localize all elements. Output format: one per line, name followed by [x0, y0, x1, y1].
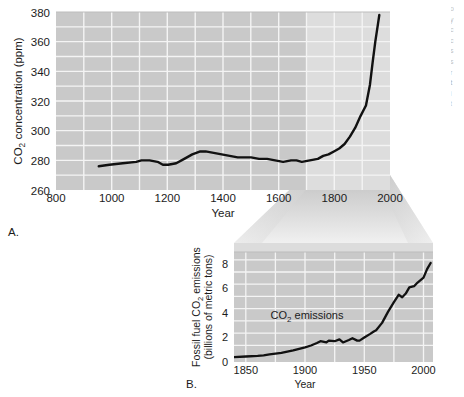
- panel-a-xtick-2: 1200: [155, 192, 181, 204]
- panel-b-label: B.: [186, 378, 197, 390]
- panel-b-ytick-0: 0: [222, 356, 228, 368]
- panel-a-ytick-6: 380: [31, 7, 50, 19]
- panel-a-ytick-5: 360: [31, 36, 50, 48]
- panel-a-xtick-1: 1000: [99, 192, 125, 204]
- panel-a-ytick-4: 340: [31, 66, 50, 78]
- panel-a-ytick-1: 280: [31, 155, 50, 167]
- panel-a-y-tick-labels: 260 280 300 320 340 360 380: [31, 7, 50, 197]
- panel-a-label: A.: [8, 226, 19, 238]
- panel-b-y-tick-labels: 0 2 4 6 8: [222, 258, 228, 368]
- panel-b-xtick-2: 1950: [352, 364, 376, 376]
- two-panel-co2-figure: 260 280 300 320 340 360 380 800 1000 120…: [0, 0, 464, 397]
- panel-b-ytick-3: 6: [222, 282, 228, 294]
- panel-b-y-axis-title-line1-part1: Fossil fuel CO: [190, 301, 202, 367]
- panel-a-x-axis-title: Year: [211, 207, 234, 219]
- panel-a-xtick-4: 1600: [266, 192, 292, 204]
- panel-b: 0 2 4 6 8 1850 1900 1950 2000 Year Fossi…: [186, 247, 436, 390]
- panel-b-series-annotation-part2: emissions: [291, 309, 343, 321]
- panel-b-ytick-1: 2: [222, 331, 228, 343]
- panel-a-y-axis-title-part2: concentration (ppm): [12, 37, 24, 143]
- panel-a-y-axis-title-part1: CO: [12, 147, 24, 164]
- panel-b-y-axis-title-line1-part2: emissions: [190, 247, 202, 297]
- panel-a: 260 280 300 320 340 360 380 800 1000 120…: [8, 7, 403, 239]
- panel-b-ytick-4: 8: [222, 258, 228, 270]
- panel-b-x-tick-labels: 1850 1900 1950 2000: [234, 364, 436, 376]
- panel-a-y-axis-title: CO2 concentration (ppm): [12, 37, 27, 164]
- panel-b-ytick-2: 4: [222, 307, 228, 319]
- panel-a-xtick-0: 800: [46, 192, 65, 204]
- panel-a-xtick-3: 1400: [210, 192, 236, 204]
- panel-b-xtick-3: 2000: [411, 364, 435, 376]
- panel-a-xtick-6: 2000: [377, 192, 403, 204]
- figure-root: 260 280 300 320 340 360 380 800 1000 120…: [0, 0, 464, 397]
- panel-b-y-axis-title-line2: (billions of metric tons): [202, 254, 214, 359]
- panel-a-ytick-2: 300: [31, 125, 50, 137]
- panel-b-series-annotation-part1: CO: [271, 309, 288, 321]
- panel-b-xtick-0: 1850: [234, 364, 258, 376]
- panel-b-xtick-1: 1900: [293, 364, 317, 376]
- panel-b-x-axis-title: Year: [294, 378, 316, 390]
- panel-a-ytick-3: 320: [31, 96, 50, 108]
- panel-a-xtick-5: 1800: [322, 192, 348, 204]
